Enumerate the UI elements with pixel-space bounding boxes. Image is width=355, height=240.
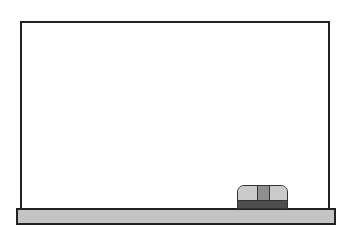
eraser-base [238,200,287,208]
whiteboard-surface [20,21,330,211]
whiteboard-scene [0,0,355,240]
eraser-icon [237,185,288,209]
whiteboard-tray [16,208,336,225]
